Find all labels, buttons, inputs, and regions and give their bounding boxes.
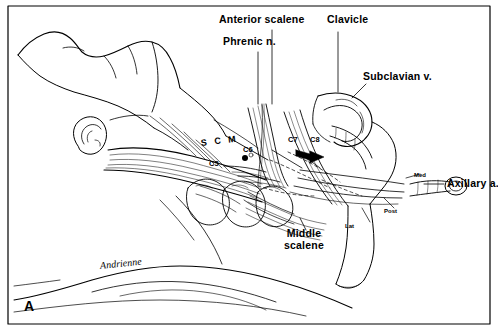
axillary-artery-inferior-wall: [410, 191, 450, 196]
axillary-artery-detail-3: [437, 180, 438, 192]
leader-lat: [362, 208, 370, 222]
plexus-cord-superior: [300, 170, 404, 184]
skull-posterior-line: [152, 42, 158, 112]
clavicle-medial-end: [313, 96, 318, 124]
chest-outline-lower: [14, 300, 306, 316]
clavicle-superior-border: [318, 93, 372, 146]
panel-letter: A: [24, 299, 34, 314]
omohyoid-fiber: [200, 186, 240, 204]
ear-lobe: [95, 140, 100, 146]
scm-lower-border: [104, 170, 262, 202]
anatomical-illustration-panel: Anterior scalene Phrenic n. Clavicle Sub…: [0, 0, 498, 331]
shoulder-contour: [370, 122, 396, 204]
first-rib-superior: [248, 192, 294, 214]
neck-anterior-contour: [154, 128, 188, 150]
subclavian-vein-superior-wall: [332, 126, 372, 158]
axillary-artery-superior-wall: [410, 181, 450, 184]
scm-striation-1: [110, 154, 262, 184]
label-anterior-scalene: Anterior scalene: [219, 14, 304, 26]
muscle-belly-2-detail: [232, 185, 248, 188]
leader-subclavian-vein: [352, 84, 366, 98]
subclavian-vein-detail-1: [335, 128, 336, 138]
temple-line: [128, 46, 137, 74]
label-root-c5: C5: [209, 160, 219, 168]
shoulder-sketch-line: [14, 280, 60, 286]
cheek-line: [104, 56, 116, 78]
anterior-scalene-lateral-border: [266, 104, 288, 186]
label-root-c8: C8: [310, 136, 320, 144]
line-art-drawing: [0, 0, 498, 331]
ear-outline: [74, 117, 107, 155]
upper-arm-medial-contour: [336, 206, 348, 284]
ear-antihelix: [87, 131, 92, 142]
label-middle-scalene-line2: scalene: [284, 239, 324, 251]
face-profile-outline: [18, 32, 180, 88]
label-med: Med: [414, 172, 426, 179]
scm-fan-1: [150, 116, 196, 156]
leader-post: [384, 198, 394, 208]
anterior-scalene-striation-1: [253, 108, 275, 187]
label-phrenic-nerve: Phrenic n.: [223, 36, 276, 48]
figure-border: [8, 6, 490, 324]
nerve-root-marker-c6: [242, 155, 248, 161]
omohyoid-fiber-2: [196, 194, 236, 212]
chest-outline-inner: [92, 281, 276, 302]
anterior-scalene-striation-3: [262, 105, 284, 187]
clavicle-detail-1: [336, 99, 357, 106]
needle-arrowhead: [310, 151, 324, 163]
axillary-artery-detail-1: [417, 182, 418, 195]
label-post: Post: [384, 208, 397, 215]
chest-contour-2: [160, 200, 194, 240]
label-subclavian-vein: Subclavian v.: [363, 71, 432, 83]
label-axillary-artery: Axillary a.: [447, 178, 498, 190]
scm-striation-2: [110, 159, 262, 189]
label-clavicle: Clavicle: [327, 14, 368, 26]
nerve-root-fiber-a: [232, 172, 268, 178]
upper-arm-lateral-contour: [364, 204, 374, 280]
axillary-artery-detail-2: [427, 181, 428, 194]
occiput-contour: [180, 88, 226, 136]
arm-cut-inner: [339, 284, 360, 287]
plexus-cord-inferior: [294, 186, 402, 198]
chest-outline-upper: [14, 266, 352, 308]
chest-contour-1: [176, 196, 222, 264]
label-middle-scalene-line1: Middle: [284, 227, 324, 239]
label-root-c7: C7: [288, 136, 298, 144]
label-lat: Lat: [345, 223, 354, 230]
label-root-c6: C6: [243, 146, 253, 154]
